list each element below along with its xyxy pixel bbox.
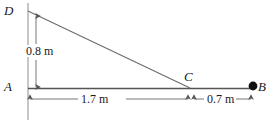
dimension-label-CB: 0.7 m <box>205 93 236 105</box>
dimension-label-height: 0.8 m <box>24 45 55 57</box>
diagram-canvas <box>0 0 270 131</box>
point-label-A: A <box>4 80 12 93</box>
ball-at-B <box>249 82 258 91</box>
point-label-B: B <box>258 80 266 93</box>
physics-diagram: D A C B 0.8 m 1.7 m 0.7 m <box>0 0 270 131</box>
dimension-label-AC: 1.7 m <box>79 93 110 105</box>
point-label-D: D <box>4 4 13 17</box>
point-label-C: C <box>184 70 193 83</box>
